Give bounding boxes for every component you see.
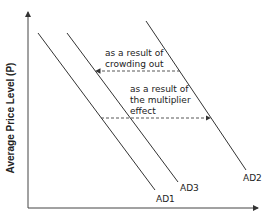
ad-shift-chart: Average Price Level (P) AD1 AD3 AD2 as a… [0,0,266,215]
multiplier-text-2: the multiplier [130,95,191,105]
ad1-label: AD1 [156,194,175,204]
multiplier-text-1: as a result of [130,84,189,94]
ad3-label: AD3 [180,183,199,193]
y-axis-label: Average Price Level (P) [5,63,16,174]
crowding-out-text-1: as a result of [105,48,164,58]
multiplier-text-3: effect [130,106,156,116]
crowding-out-text-2: crowding out [105,59,164,69]
ad2-label: AD2 [243,173,262,183]
